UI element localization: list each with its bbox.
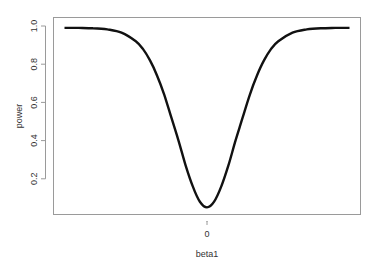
power-curve-chart: 0.20.40.60.81.0 0 beta1 power	[0, 0, 383, 270]
x-axis-label: beta1	[196, 249, 219, 259]
x-axis: 0	[204, 221, 209, 239]
x-tick-label: 0	[204, 229, 209, 239]
y-tick-label: 0.6	[29, 96, 39, 109]
plot-frame	[54, 18, 361, 215]
power-curve-line	[65, 28, 350, 208]
y-axis-label: power	[14, 104, 24, 129]
y-tick-label: 0.8	[29, 58, 39, 71]
y-tick-label: 0.4	[29, 134, 39, 147]
y-axis: 0.20.40.60.81.0	[29, 20, 46, 185]
y-tick-label: 1.0	[29, 20, 39, 33]
y-tick-label: 0.2	[29, 173, 39, 186]
